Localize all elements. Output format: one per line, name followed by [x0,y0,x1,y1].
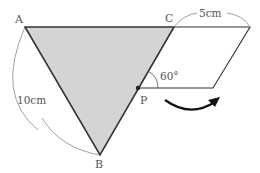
label-10cm: 10cm [17,94,46,106]
label-p: P [140,94,148,107]
label-c: C [165,12,173,25]
arc-5cm-left [174,13,197,27]
arc-5cm-right [227,13,250,27]
label-a: A [14,13,24,26]
geometry-diagram: A C P B 10cm 5cm 60° [0,0,260,173]
rotation-arrow-icon [165,100,215,110]
label-b: B [95,158,103,171]
diagram-svg: A C P B 10cm 5cm 60° [0,0,260,173]
label-60deg: 60° [160,70,179,82]
label-5cm: 5cm [199,7,222,19]
point-p-dot [136,86,140,90]
triangle-abc [25,27,174,155]
angle-arc-60 [148,71,158,88]
